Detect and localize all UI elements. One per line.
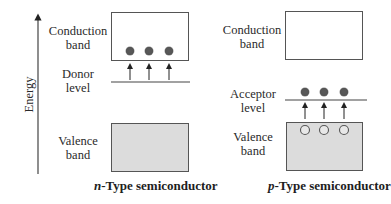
electron-icon — [145, 47, 154, 56]
p-holes — [301, 126, 349, 135]
n-caption-rest: -Type semiconductor — [101, 178, 217, 193]
n-type-caption: n-Type semiconductor — [94, 178, 218, 194]
p-caption-rest: -Type semiconductor — [275, 178, 391, 193]
p-type-caption: p-Type semiconductor — [268, 178, 391, 194]
hole-icon — [301, 126, 310, 135]
electron-icon — [320, 88, 329, 97]
n-electrons — [126, 47, 174, 56]
electron-icon — [340, 88, 349, 97]
electron-icon — [301, 88, 310, 97]
hole-icon — [340, 126, 349, 135]
electron-icon — [165, 47, 174, 56]
hole-icon — [320, 126, 329, 135]
p-transition-arrows — [305, 105, 344, 119]
n-transition-arrows — [130, 66, 169, 80]
p-electrons — [301, 88, 349, 97]
electron-icon — [126, 47, 135, 56]
